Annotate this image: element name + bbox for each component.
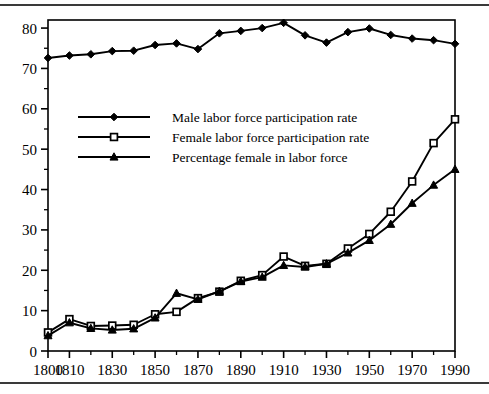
y-tick-label: 60 [22,101,37,117]
series-line [48,23,455,58]
series-point [151,41,159,49]
y-tick-label: 0 [30,344,38,360]
x-tick-label: 1990 [440,362,470,378]
series-point [409,178,416,185]
series-point [451,40,459,48]
series-3 [44,165,459,339]
series-point [366,25,374,33]
y-tick-label: 20 [22,263,37,279]
series-point [280,253,287,260]
legend-marker-icon [110,113,118,121]
series-point [323,39,331,47]
legend-item: Female labor force participation rate [78,130,369,145]
series-point [173,40,181,48]
series-point [452,116,459,123]
legend-label: Male labor force participation rate [172,110,357,125]
series-point [344,28,352,36]
legend: Male labor force participation rateFemal… [78,110,369,165]
series-point [451,165,459,172]
series-point [430,140,437,147]
y-tick-label: 10 [22,303,37,319]
legend-item: Male labor force participation rate [78,110,357,125]
x-tick-label: 1950 [354,362,384,378]
series-point [173,308,180,315]
series-point [66,52,74,60]
legend-label: Female labor force participation rate [172,130,369,145]
y-tick-label: 40 [22,182,37,198]
legend-label: Percentage female in labor force [172,150,347,165]
x-tick-label: 1910 [269,362,299,378]
series-point [44,54,52,62]
legend-item: Percentage female in labor force [78,150,347,165]
x-tick-label: 1930 [311,362,341,378]
y-tick-label: 50 [22,142,37,158]
x-tick-label: 1870 [183,362,213,378]
series-point [237,27,245,35]
series-point [430,36,438,44]
y-tick-label: 80 [22,21,37,37]
y-tick-label: 70 [22,61,37,77]
series-2 [45,116,459,336]
legend-marker-icon [111,134,118,141]
x-tick-label: 1890 [226,362,256,378]
plot-frame [48,20,455,351]
series-1 [44,19,459,62]
x-tick-label: 1830 [97,362,127,378]
y-tick-label: 30 [22,222,37,238]
series-line [48,169,455,335]
x-axis: 1800181018301850187018901910193019501970… [33,351,470,378]
series-point [408,35,416,43]
series-point [301,32,309,40]
y-axis: 01020304050607080 [22,21,48,360]
x-tick-label: 1970 [397,362,427,378]
series-point [387,31,395,39]
series-point [87,51,95,59]
series-point [108,47,116,55]
series-point [387,208,394,215]
labor-force-line-chart: 0102030405060708018001810183018501870189… [0,0,489,394]
x-tick-label: 1810 [54,362,84,378]
series-point [173,289,181,296]
series-point [130,47,138,55]
figure-page: 0102030405060708018001810183018501870189… [0,0,489,394]
x-tick-label: 1850 [140,362,170,378]
series-point [258,24,266,32]
